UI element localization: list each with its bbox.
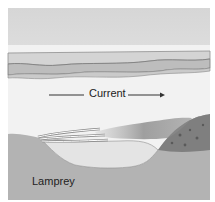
current-label: Current — [89, 87, 126, 99]
lamprey-nest-diagram — [0, 0, 215, 202]
lamprey-label: Lamprey — [32, 175, 75, 187]
